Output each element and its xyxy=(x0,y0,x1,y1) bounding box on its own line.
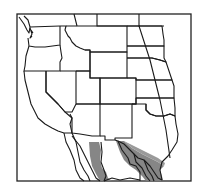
range-map xyxy=(0,0,197,195)
map-svg xyxy=(0,0,197,195)
